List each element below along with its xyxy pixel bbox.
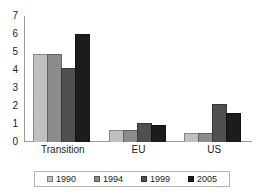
- legend-label: 1999: [150, 175, 170, 184]
- x-axis-category-labels: TransitionEUUS: [25, 144, 252, 160]
- x-axis-label-us: US: [207, 144, 221, 156]
- legend-label: 1994: [103, 175, 123, 184]
- bar-1990-eu: [109, 130, 124, 142]
- bar-1999-eu: [137, 123, 152, 142]
- legend-item-2005[interactable]: 2005: [188, 175, 217, 184]
- legend-swatch-icon: [141, 176, 147, 182]
- bars-area: [25, 16, 252, 142]
- legend-swatch-icon: [94, 176, 100, 182]
- legend-label: 1990: [56, 175, 76, 184]
- bar-group: [33, 16, 93, 142]
- bar-1990-us: [184, 133, 199, 142]
- bar-2005-eu: [151, 125, 166, 142]
- legend-swatch-icon: [188, 176, 194, 182]
- bar-group: [184, 16, 244, 142]
- y-axis-tick-label: 5: [12, 47, 18, 57]
- chart-legend: 1990199419992005: [34, 171, 230, 187]
- bar-2005-transition: [75, 34, 90, 142]
- legend-label: 2005: [197, 175, 217, 184]
- y-axis-tick-label: 2: [12, 101, 18, 111]
- y-axis-tick-label: 4: [12, 65, 18, 75]
- y-axis-tick-label: 1: [12, 119, 18, 129]
- y-axis-tick-labels: 01234567: [0, 0, 22, 160]
- bar-2005-us: [226, 113, 241, 142]
- bar-1994-transition: [47, 54, 62, 142]
- x-axis-label-eu: EU: [132, 144, 146, 156]
- bar-chart: 01234567 TransitionEUUS 1990199419992005: [0, 0, 262, 196]
- y-axis-tick-label: 7: [12, 11, 18, 21]
- bar-group: [109, 16, 169, 142]
- legend-swatch-icon: [47, 176, 53, 182]
- plot-area: 01234567 TransitionEUUS: [0, 0, 262, 160]
- legend-item-1994[interactable]: 1994: [94, 175, 123, 184]
- y-axis-tick-label: 6: [12, 29, 18, 39]
- x-axis-label-transition: Transition: [41, 144, 85, 156]
- legend-item-1999[interactable]: 1999: [141, 175, 170, 184]
- bar-1999-us: [212, 104, 227, 142]
- y-axis-tick-label: 3: [12, 83, 18, 93]
- legend-item-1990[interactable]: 1990: [47, 175, 76, 184]
- bar-1994-us: [198, 133, 213, 142]
- bar-1990-transition: [33, 54, 48, 142]
- bar-1999-transition: [61, 68, 76, 142]
- y-axis-tick-label: 0: [12, 137, 18, 147]
- bar-1994-eu: [123, 130, 138, 142]
